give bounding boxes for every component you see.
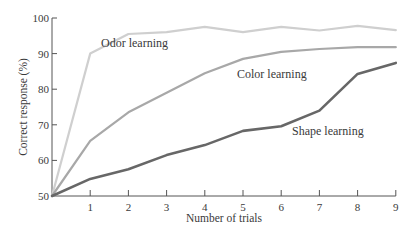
line-chart: 5060708090100 123456789 Odor learningCol…: [0, 0, 418, 233]
x-tick-label: 7: [317, 201, 323, 213]
x-tick-label: 6: [278, 201, 284, 213]
color-learning-line: [52, 47, 396, 196]
y-tick-label: 90: [38, 48, 50, 60]
shape-learning-label: Shape learning: [292, 124, 364, 138]
y-tick-label: 100: [33, 12, 50, 24]
y-axis-title: Correct response (%): [17, 58, 30, 156]
series-lines: [52, 26, 396, 196]
x-tick-label: 1: [87, 201, 93, 213]
color-learning-label: Color learning: [237, 67, 307, 81]
x-tick-label: 9: [393, 201, 399, 213]
series-labels: Odor learningColor learningShape learnin…: [101, 36, 364, 138]
odor-learning-line: [52, 26, 396, 196]
y-tick-label: 80: [38, 83, 50, 95]
x-axis: 123456789: [52, 190, 399, 213]
x-tick-label: 3: [164, 201, 170, 213]
x-tick-label: 2: [126, 201, 132, 213]
x-tick-label: 8: [355, 201, 361, 213]
odor-learning-label: Odor learning: [101, 36, 168, 50]
x-axis-title: Number of trials: [186, 212, 263, 224]
y-axis: 5060708090100: [33, 12, 58, 202]
y-tick-label: 50: [38, 190, 50, 202]
y-tick-label: 60: [38, 154, 50, 166]
y-tick-label: 70: [38, 119, 50, 131]
